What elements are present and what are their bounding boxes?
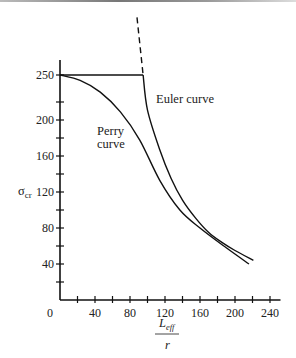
x-tick-label: 160	[191, 306, 209, 320]
y-tick-label: 160	[36, 149, 54, 163]
y-axis-label: σcr	[18, 184, 32, 200]
x-tick-label: 80	[124, 306, 136, 320]
x-tick-label: 40	[89, 306, 101, 320]
x-axis-label-denominator: r	[165, 338, 170, 352]
perry-curve-line	[60, 75, 249, 264]
perry-curve-label-line2: curve	[97, 137, 125, 151]
axis-ticks	[56, 75, 270, 303]
perry-curve-label-line1: Perry	[97, 124, 125, 138]
y-tick-label: 250	[36, 68, 54, 82]
x-tick-label: 240	[261, 306, 279, 320]
labels: 040801201602002404080120160200250Euler c…	[36, 68, 279, 320]
euler-curve-extension-line	[137, 17, 143, 75]
y-tick-label: 200	[36, 113, 54, 127]
y-axis-label-subscript: cr	[25, 190, 32, 200]
x-tick-label: 200	[226, 306, 244, 320]
x-tick-label: 0	[47, 306, 53, 320]
y-tick-label: 80	[42, 221, 54, 235]
curves	[60, 17, 253, 264]
y-tick-label: 120	[36, 185, 54, 199]
column-buckling-chart: 040801201602002404080120160200250Euler c…	[0, 0, 296, 358]
euler-curve-label: Euler curve	[156, 92, 214, 106]
y-tick-label: 40	[42, 257, 54, 271]
